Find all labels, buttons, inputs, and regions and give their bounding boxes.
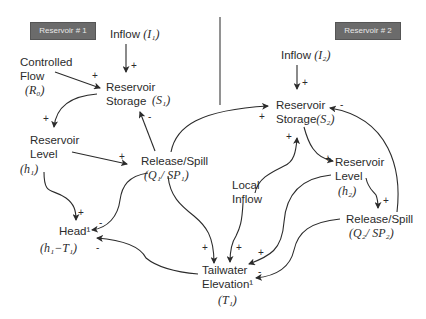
inflow1-symbol: (I₁) — [143, 27, 159, 41]
arrow-localinflow-tailwater — [230, 203, 243, 262]
release1-symbol: (Q₁/ SP₁) — [144, 168, 189, 182]
level1-line2: Level — [30, 147, 79, 161]
sign-localinflow-tailwater: + — [236, 243, 242, 253]
sign-tailwater-head: - — [96, 243, 99, 253]
storage1-node: Reservoir Storage — [106, 80, 155, 108]
inflow1-label: Inflow — [110, 28, 140, 40]
level1-symbol: (h₁) — [20, 162, 38, 176]
sign-release2-tailwater: - — [258, 267, 261, 277]
storage2-line2: Storage — [276, 113, 316, 125]
storage1-line2: Storage — [106, 94, 155, 108]
local-inflow-node: Local Inflow — [232, 178, 262, 206]
sign-release1-storage1: - — [148, 112, 151, 122]
level2-line1: Reservoir — [335, 155, 384, 169]
sign-inflow1-storage1: + — [131, 61, 137, 71]
arrow-storage1-level1 — [54, 94, 97, 127]
level1-line1: Reservoir — [30, 133, 79, 147]
causal-loop-diagram: Reservoir # 1 Reservoir # 2 Inflow (I₁) … — [0, 0, 426, 319]
controlled-flow-line1: Controlled — [20, 55, 72, 69]
sign-level2-tailwater: + — [258, 248, 264, 258]
storage1-line1: Reservoir — [106, 80, 155, 94]
tailwater-line1: Tailwater — [202, 263, 253, 277]
sign-level1-head: + — [78, 208, 84, 218]
level1-node: Reservoir Level — [30, 133, 79, 161]
release1-line1: Release/Spill — [141, 154, 208, 168]
tailwater-node: Tailwater Elevation¹ — [202, 263, 253, 291]
sign-inflow2-storage2: + — [302, 78, 308, 88]
sign-storage1-level1: + — [43, 114, 49, 124]
controlled-flow-symbol: (R₀) — [20, 83, 72, 97]
sign-controlled-storage1: + — [92, 71, 98, 81]
sign-release1-storage2: + — [259, 112, 265, 122]
tailwater-line2: Elevation¹ — [202, 277, 253, 291]
inflow1-node: Inflow (I₁) — [110, 27, 159, 41]
arrow-release1-storage2 — [171, 106, 268, 152]
level2-symbol: (h₂) — [338, 184, 356, 198]
inflow2-label: Inflow — [281, 49, 311, 61]
sign-localinflow-storage2: + — [286, 132, 292, 142]
level2-line2: Level — [335, 169, 384, 183]
storage2-line1: Reservoir — [276, 98, 334, 112]
head-symbol: (h₁−T₁) — [40, 241, 77, 255]
arrow-level1-head — [44, 172, 76, 220]
storage1-symbol: (S₁) — [152, 93, 170, 107]
head-node: Head¹ — [59, 224, 90, 238]
inflow2-symbol: (I₂) — [314, 48, 330, 62]
sign-release1-tailwater: + — [202, 243, 208, 253]
storage2-symbol: (S₂) — [316, 112, 334, 126]
arrow-release2-tailwater — [256, 219, 340, 278]
controlled-flow-line2: Flow — [20, 69, 72, 83]
local-inflow-line1: Local — [232, 178, 262, 192]
storage2-node: Reservoir Storage(S₂) — [276, 98, 334, 126]
local-inflow-line2: Inflow — [232, 192, 262, 206]
tailwater-symbol: (T₁) — [218, 293, 237, 307]
release1-node: Release/Spill — [141, 154, 208, 168]
sign-level1-release1: + — [119, 152, 125, 162]
sign-release1-head: - — [99, 218, 102, 228]
sign-level2-release2: + — [383, 196, 389, 206]
sign-release2-storage2: - — [340, 100, 343, 110]
inflow2-node: Inflow (I₂) — [281, 48, 330, 62]
release2-symbol: (Q₂/ SP₂) — [349, 226, 394, 240]
sign-storage2-level2: + — [325, 154, 331, 164]
arrow-tailwater-head — [97, 238, 198, 274]
release2-node: Release/Spill — [346, 212, 413, 226]
reservoir2-tag: Reservoir # 2 — [335, 22, 401, 40]
level2-node: Reservoir Level — [335, 155, 384, 183]
reservoir1-tag: Reservoir # 1 — [30, 22, 96, 40]
controlled-flow-node: Controlled Flow (R₀) — [20, 55, 72, 97]
